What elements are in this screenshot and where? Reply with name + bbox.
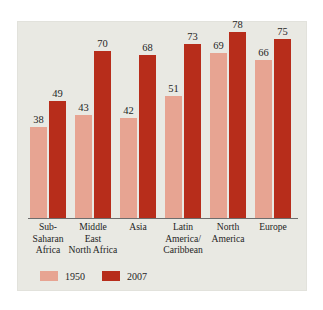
bar-value-label: 75 xyxy=(274,26,291,37)
legend-swatch-1950 xyxy=(40,271,58,281)
bar-group: 4268 xyxy=(120,22,156,218)
legend-label-1950: 1950 xyxy=(65,271,85,282)
x-axis-label-line: North Africa xyxy=(66,244,120,256)
plot-area: 384943704268517369786675 xyxy=(18,22,306,218)
x-axis-label-line: East xyxy=(66,233,120,245)
bar-group: 3849 xyxy=(30,22,66,218)
legend-item-1950: 1950 xyxy=(40,271,85,282)
bar-value-label: 49 xyxy=(49,88,66,99)
bar-2007-3 xyxy=(184,44,201,218)
bar-value-label: 51 xyxy=(165,83,182,94)
bar-2007-4 xyxy=(229,32,246,218)
legend-label-2007: 2007 xyxy=(127,271,147,282)
bar-value-label: 69 xyxy=(210,40,227,51)
bar-1950-3 xyxy=(165,96,182,218)
bar-1950-4 xyxy=(210,53,227,218)
legend-swatch-2007 xyxy=(102,271,120,281)
bar-2007-1 xyxy=(94,51,111,218)
x-axis-label-line: America xyxy=(201,233,255,245)
bar-value-label: 73 xyxy=(184,31,201,42)
x-axis-baseline xyxy=(28,218,298,219)
bar-group: 6675 xyxy=(255,22,291,218)
bar-value-label: 68 xyxy=(139,42,156,53)
bar-value-label: 43 xyxy=(75,102,92,113)
x-axis-label-line: Caribbean xyxy=(156,244,210,256)
bar-group: 5173 xyxy=(165,22,201,218)
x-axis-label-line: Europe xyxy=(246,221,300,233)
bar-2007-0 xyxy=(49,101,66,218)
bar-1950-2 xyxy=(120,118,137,218)
bar-chart-panel: 384943704268517369786675 Sub-SaharanAfri… xyxy=(18,22,306,290)
bar-group: 4370 xyxy=(75,22,111,218)
bar-value-label: 38 xyxy=(30,114,47,125)
figure-root: 384943704268517369786675 Sub-SaharanAfri… xyxy=(0,0,323,310)
bar-group: 6978 xyxy=(210,22,246,218)
legend-item-2007: 2007 xyxy=(102,271,147,282)
bar-1950-5 xyxy=(255,60,272,218)
bar-1950-1 xyxy=(75,115,92,218)
bar-2007-2 xyxy=(139,55,156,218)
bar-value-label: 70 xyxy=(94,38,111,49)
bar-value-label: 78 xyxy=(229,19,246,30)
bar-value-label: 42 xyxy=(120,105,137,116)
bar-value-label: 66 xyxy=(255,47,272,58)
x-axis-label-row: Sub-SaharanAfricaMiddleEastNorth AfricaA… xyxy=(18,221,306,267)
bar-2007-5 xyxy=(274,39,291,218)
x-axis-label: Europe xyxy=(246,221,300,233)
bar-1950-0 xyxy=(30,127,47,218)
chart-legend: 1950 2007 xyxy=(40,268,164,284)
